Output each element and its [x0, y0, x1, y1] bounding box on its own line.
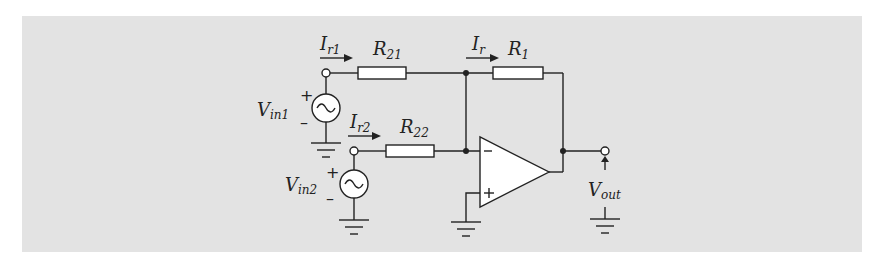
- junction-dot-output: [560, 148, 566, 154]
- arrow-right-icon: [372, 132, 381, 140]
- resistor-r22: [386, 145, 434, 157]
- label-ir1: Ir1: [319, 33, 341, 57]
- vin1-plus-sign: +: [300, 86, 313, 105]
- vin2-minus-sign: –: [326, 189, 334, 208]
- ground-icon: [451, 222, 481, 236]
- ground-icon: [311, 143, 341, 157]
- label-r22: R22: [399, 116, 429, 140]
- vin1-minus-sign: –: [300, 113, 308, 132]
- label-r21: R21: [372, 38, 402, 62]
- vin1-source: [311, 69, 341, 157]
- circuit-diagram: Ir1 R21 Ir R1 Ir2 R22 Vin1 + – Vin2 + – …: [0, 0, 878, 262]
- vin1-terminal: [322, 69, 330, 77]
- junction-dot-inverting: [463, 148, 469, 154]
- vout-arrow-icon: [601, 156, 609, 162]
- vin2-terminal: [350, 147, 358, 155]
- opamp: [480, 137, 549, 207]
- arrow-right-icon: [344, 54, 353, 62]
- label-vin2: Vin2: [285, 174, 317, 197]
- vin2-source: [339, 147, 369, 234]
- ground-icon: [339, 220, 369, 234]
- label-vin1: Vin1: [257, 99, 289, 122]
- label-ir2: Ir2: [349, 111, 371, 135]
- vin2-plus-sign: +: [326, 163, 339, 182]
- resistor-r21: [358, 67, 406, 79]
- vout-terminal: [601, 147, 609, 155]
- ground-icon: [590, 219, 620, 233]
- label-vout: Vout: [588, 179, 621, 202]
- label-ir: Ir: [471, 33, 486, 57]
- resistor-r1: [493, 67, 543, 79]
- label-r1: R1: [507, 38, 529, 62]
- arrow-right-icon: [490, 54, 499, 62]
